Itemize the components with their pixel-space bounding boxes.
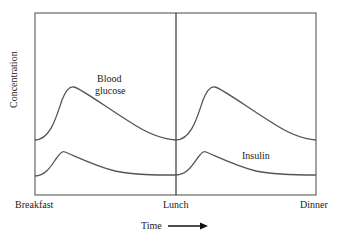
arrow-head-icon xyxy=(200,223,208,230)
tick-lunch: Lunch xyxy=(163,199,189,210)
tick-dinner: Dinner xyxy=(300,199,328,210)
x-axis-label: Time xyxy=(141,220,162,231)
y-axis-label: Concentration xyxy=(8,51,19,108)
glucose-label-line1: Blood xyxy=(97,73,121,84)
tick-breakfast: Breakfast xyxy=(15,199,53,210)
glucose-label-line2: glucose xyxy=(95,85,126,96)
insulin-label: Insulin xyxy=(242,150,270,161)
